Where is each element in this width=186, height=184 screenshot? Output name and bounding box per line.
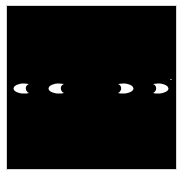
crescent-right-icon (13, 83, 30, 94)
crescent-shape-3 (117, 83, 134, 94)
crescent-shape-2 (48, 83, 65, 94)
figure-canvas (0, 0, 186, 184)
black-panel (7, 6, 176, 169)
crescent-left-icon (152, 83, 169, 94)
crescent-right-icon (48, 83, 65, 94)
crescent-shape-1 (13, 83, 30, 94)
crescent-shape-4 (152, 83, 169, 94)
gray-speck (170, 79, 172, 80)
crescent-left-icon (117, 83, 134, 94)
